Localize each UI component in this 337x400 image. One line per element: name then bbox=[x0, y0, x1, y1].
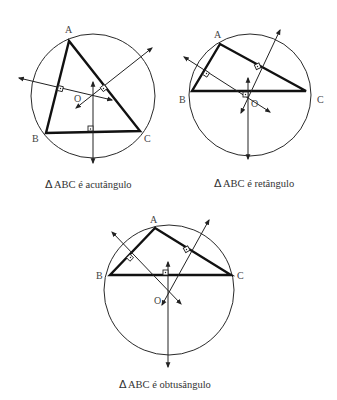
right-angle-mark-ac bbox=[100, 85, 107, 92]
perpendicular-bisector-ac bbox=[162, 220, 209, 305]
right-angle-mark-bc bbox=[88, 126, 93, 131]
right-angle-mark-bc bbox=[243, 92, 248, 97]
vertex-label-b: B bbox=[96, 270, 103, 281]
figure-acute-triangle: A B C O Δ ABC é acutângulo bbox=[19, 24, 155, 191]
caption-text: ABC é retângulo bbox=[223, 178, 294, 189]
vertex-label-c: C bbox=[237, 270, 244, 281]
circumcenter-label-o: O bbox=[74, 93, 81, 104]
vertex-label-a: A bbox=[214, 29, 222, 40]
triangle-symbol: Δ bbox=[45, 178, 53, 191]
triangle-abc bbox=[110, 228, 231, 275]
vertex-label-b: B bbox=[179, 94, 186, 105]
caption-acute: Δ ABC é acutângulo bbox=[45, 178, 132, 191]
vertex-label-c: C bbox=[317, 94, 324, 105]
vertex-label-a: A bbox=[65, 24, 73, 35]
right-angle-mark-ab bbox=[57, 86, 63, 92]
perpendicular-bisector-ab bbox=[112, 232, 181, 304]
circumcenter-label-o: O bbox=[251, 98, 258, 109]
perpendicular-bisector-ac bbox=[241, 30, 280, 113]
figure-right-triangle: A B C O Δ ABC é retângulo bbox=[179, 29, 324, 190]
vertex-label-c: C bbox=[144, 133, 151, 144]
caption-right: Δ ABC é retângulo bbox=[214, 177, 294, 190]
vertex-label-b: B bbox=[32, 133, 39, 144]
figure-obtuse-triangle: A B C O Δ ABC é obtusângulo bbox=[96, 214, 244, 391]
caption-obtuse: Δ ABC é obtusângulo bbox=[119, 378, 211, 391]
right-angle-mark-bc bbox=[163, 270, 168, 275]
vertex-label-a: A bbox=[150, 214, 158, 225]
perpendicular-bisector-ab bbox=[19, 78, 112, 100]
triangle-symbol: Δ bbox=[214, 177, 222, 190]
triangle-symbol: Δ bbox=[119, 378, 127, 391]
circumcenter-diagram: A B C O Δ ABC é acutângulo A B C bbox=[0, 0, 337, 400]
caption-text: ABC é obtusângulo bbox=[128, 379, 211, 390]
caption-text: ABC é acutângulo bbox=[54, 179, 132, 190]
triangle-abc bbox=[192, 44, 306, 91]
circumcenter-label-o: O bbox=[154, 295, 161, 306]
